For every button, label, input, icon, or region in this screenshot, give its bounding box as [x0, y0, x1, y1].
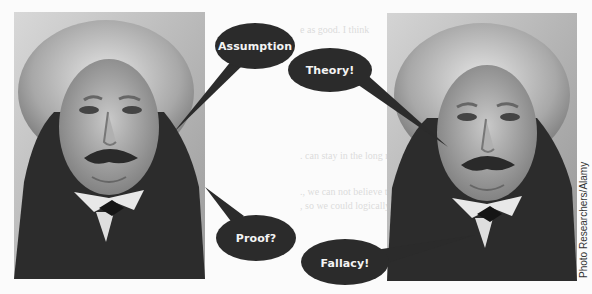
- bubble-label-theory: Theory!: [306, 64, 355, 77]
- speech-bubble-proof: [205, 187, 296, 261]
- bubble-label-fallacy: Fallacy!: [321, 257, 370, 270]
- bubble-label-proof: Proof?: [236, 232, 276, 245]
- speech-bubbles-layer: [0, 0, 592, 294]
- photo-credit: Photo Researchers/Alamy: [578, 162, 589, 278]
- bubble-label-assumption: Assumption: [218, 40, 292, 53]
